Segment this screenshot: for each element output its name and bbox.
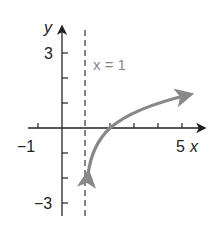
y-tick-label-bottom: −3 — [34, 195, 52, 212]
log-curve — [88, 95, 188, 175]
x-tick-label-right: 5 — [176, 138, 185, 155]
x-axis-label: x — [189, 138, 199, 155]
graph: y 3 −3 −1 5 x x = 1 — [0, 0, 211, 225]
asymptote-label: x = 1 — [93, 56, 126, 73]
y-tick-label-top: 3 — [44, 45, 53, 62]
x-tick-label-left: −1 — [17, 138, 35, 155]
y-axis-label: y — [43, 19, 53, 36]
